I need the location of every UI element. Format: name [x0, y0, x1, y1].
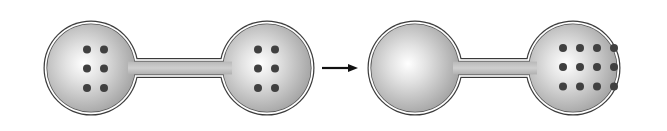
particle — [254, 46, 262, 54]
particle — [610, 44, 618, 52]
particle — [83, 65, 91, 73]
connecting-tube — [128, 62, 232, 75]
particle — [271, 65, 279, 73]
particle — [83, 84, 91, 92]
particle — [576, 63, 584, 71]
right-bulb — [223, 24, 311, 112]
particle — [576, 83, 584, 91]
particle — [254, 84, 262, 92]
right-bulb-full — [529, 24, 617, 112]
particle — [83, 46, 91, 54]
arrow-right-icon — [322, 64, 358, 72]
connecting-tube — [453, 62, 537, 75]
left-bulb-empty — [371, 24, 459, 112]
particle — [593, 83, 601, 91]
particle — [100, 46, 108, 54]
particle — [610, 83, 618, 91]
particle — [593, 44, 601, 52]
particle — [100, 84, 108, 92]
particle — [271, 46, 279, 54]
particle — [254, 65, 262, 73]
left-bulb — [47, 24, 135, 112]
particle — [100, 65, 108, 73]
particle — [576, 44, 584, 52]
apparatus-initial — [44, 21, 315, 116]
apparatus-final — [368, 21, 621, 116]
particle — [559, 83, 567, 91]
particle — [593, 63, 601, 71]
particle — [559, 44, 567, 52]
particle — [559, 63, 567, 71]
diagram-stage — [0, 0, 667, 131]
particle — [610, 63, 618, 71]
particle — [271, 84, 279, 92]
